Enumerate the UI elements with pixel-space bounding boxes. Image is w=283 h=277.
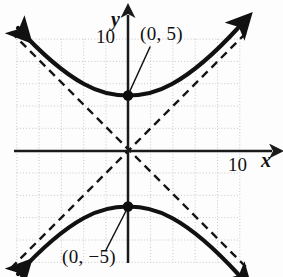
- vertex-marker-bottom: [123, 201, 133, 211]
- hyperbola-figure: y x 10 10 (0, 5) (0, −5): [0, 0, 283, 277]
- vertex-bottom-label: (0, −5): [62, 247, 116, 266]
- leader-line-vertex-top: [129, 47, 150, 93]
- vertex-top-label: (0, 5): [140, 24, 183, 43]
- x-axis-label: x: [261, 150, 271, 170]
- x-axis-tick-label-10: 10: [228, 155, 247, 174]
- vertex-marker-top: [123, 90, 133, 100]
- leader-line-vertex-bottom: [106, 209, 127, 250]
- y-axis-tick-label-10: 10: [96, 27, 115, 46]
